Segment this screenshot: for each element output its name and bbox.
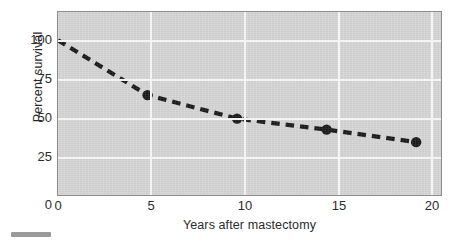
x-tick-label: 0 bbox=[38, 199, 78, 212]
chart-figure: Percent survival 100 75 50 25 0 0 5 10 1… bbox=[0, 0, 455, 244]
x-tick-label: 20 bbox=[412, 199, 452, 212]
page-corner-mark bbox=[11, 232, 51, 237]
x-tick-label: 10 bbox=[225, 199, 265, 212]
x-axis-tick-labels: 0 5 10 15 20 bbox=[0, 0, 455, 244]
x-tick-label: 15 bbox=[319, 199, 359, 212]
x-axis-label: Years after mastectomy bbox=[57, 218, 442, 232]
x-tick-label: 5 bbox=[131, 199, 171, 212]
